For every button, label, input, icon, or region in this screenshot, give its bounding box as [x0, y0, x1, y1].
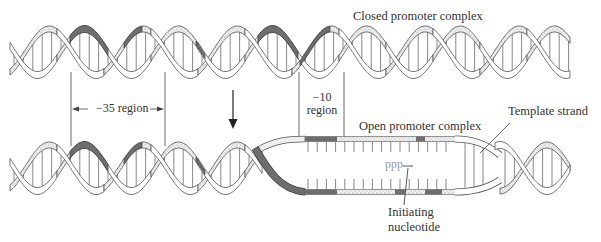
closed-complex-helix [10, 26, 570, 79]
template-strand-label: Template strand [508, 105, 588, 118]
initiating-line2: nucleotide [388, 220, 440, 235]
open-complex-label: Open promoter complex [359, 120, 481, 133]
initiating-nucleotide-label: Initiating nucleotide [388, 205, 440, 235]
open-complex-helix [10, 137, 570, 195]
minus35-region-label: −35 region [94, 102, 150, 114]
transition-arrow-icon [229, 90, 238, 129]
minus10-line2: region [303, 104, 341, 117]
ppp-label: ppp [385, 158, 403, 170]
initiating-nucleotide-pointer [403, 166, 413, 205]
minus10-region-label: −10 region [303, 91, 341, 117]
dna-promoter-diagram [0, 0, 601, 242]
closed-complex-label: Closed promoter complex [353, 10, 483, 23]
initiating-line1: Initiating [388, 205, 440, 220]
